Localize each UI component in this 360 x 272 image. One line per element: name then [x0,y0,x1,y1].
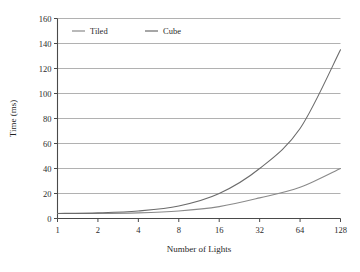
y-tick-label: 80 [43,114,52,124]
y-tick-label: 140 [39,39,52,49]
legend: TiledCube [72,26,181,36]
y-tick-label: 60 [43,139,52,149]
gridlines [58,19,341,194]
y-tick-label: 0 [47,214,51,224]
x-tick-label: 16 [215,225,224,235]
chart-container: 0204060801001201401601248163264128Number… [0,0,360,272]
x-tick-label: 2 [96,225,100,235]
y-tick-label: 120 [39,64,52,74]
x-tick-label: 32 [255,225,264,235]
series-group [58,50,341,214]
y-axis-title: Time (ms) [8,100,18,137]
y-tick-label: 100 [39,89,52,99]
legend-label-tiled: Tiled [90,26,108,36]
y-tick-label: 40 [43,164,52,174]
series-line-cube [58,50,341,214]
series-line-tiled [58,169,341,214]
x-tick-label: 4 [136,225,141,235]
x-tick-label: 8 [177,225,181,235]
y-tick-label: 20 [43,189,52,199]
x-axis-ticks: 1248163264128 [55,219,347,235]
x-tick-label: 64 [296,225,305,235]
y-tick-label: 160 [39,14,52,24]
legend-label-cube: Cube [163,26,181,36]
x-axis-title: Number of Lights [167,244,232,254]
x-tick-label: 1 [55,225,59,235]
x-tick-label: 128 [334,225,347,235]
line-chart: 0204060801001201401601248163264128Number… [0,0,360,272]
y-axis-ticks: 020406080100120140160 [39,14,58,224]
